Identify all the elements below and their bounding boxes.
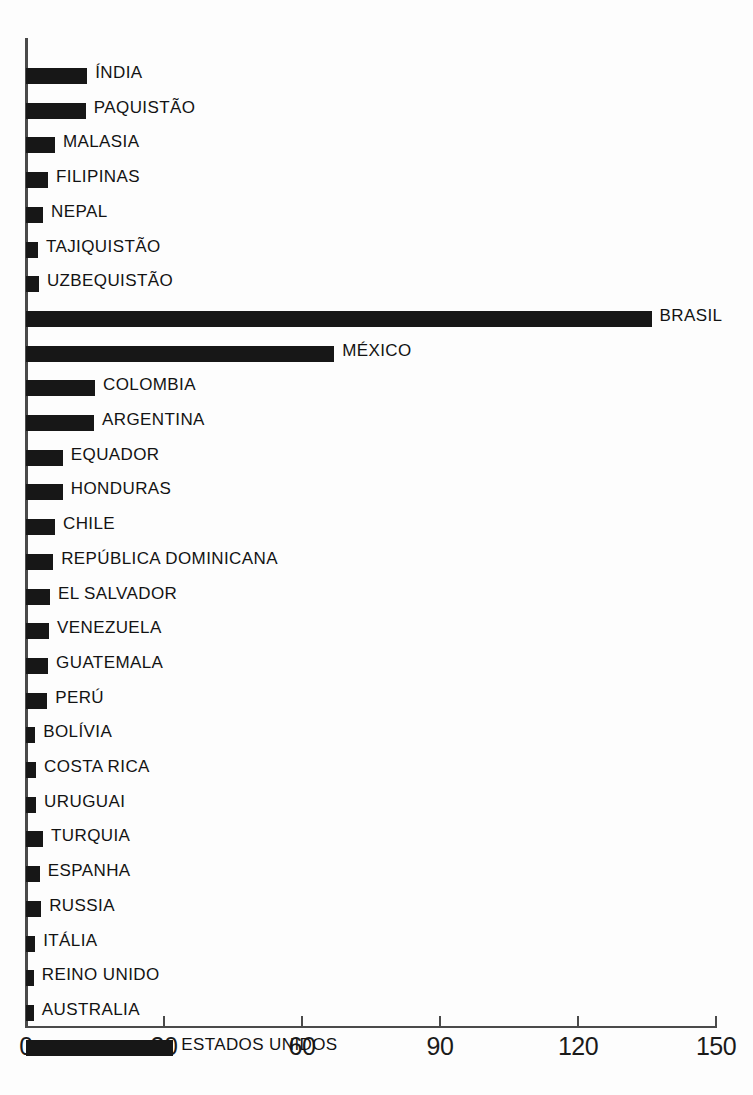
bar-label: TURQUIA [51, 828, 130, 844]
bar-row: CHILE [26, 519, 727, 535]
bar-label: REINO UNIDO [42, 967, 160, 983]
bar-row: BRASIL [26, 311, 727, 327]
bar [26, 589, 50, 605]
bar-label: COSTA RICA [44, 759, 150, 775]
bar [26, 866, 40, 882]
bar-label: MÉXICO [342, 343, 411, 359]
bar [26, 311, 652, 327]
bar-label: COLOMBIA [103, 377, 196, 393]
bar-label: FILIPINAS [56, 169, 140, 185]
bar-row: MÉXICO [26, 346, 727, 362]
bar [26, 415, 94, 431]
bar-label: CHILE [63, 516, 115, 532]
bar [26, 693, 47, 709]
bar [26, 797, 36, 813]
bar-label: ESTADOS UNIDOS [181, 1037, 337, 1053]
bar [26, 1040, 173, 1056]
chart-page: 0306090120150 ÍNDIAPAQUISTÃOMALASIAFILIP… [0, 0, 753, 1095]
bar-row: UZBEQUISTÃO [26, 276, 727, 292]
bar [26, 901, 41, 917]
bar-row: ITÁLIA [26, 936, 727, 952]
bar [26, 380, 95, 396]
bar [26, 172, 48, 188]
bar-row: COLOMBIA [26, 380, 727, 396]
bar-row: PERÚ [26, 693, 727, 709]
bar [26, 554, 53, 570]
bar-row: ESTADOS UNIDOS [26, 1040, 727, 1056]
bar [26, 762, 36, 778]
bar-row: RUSSIA [26, 901, 727, 917]
bar [26, 727, 35, 743]
bar-label: EL SALVADOR [58, 586, 177, 602]
bar-row: ÍNDIA [26, 68, 727, 84]
bar-label: PAQUISTÃO [94, 100, 196, 116]
bar-label: GUATEMALA [56, 655, 163, 671]
bar-row: TAJIQUISTÃO [26, 242, 727, 258]
x-axis-line [25, 1026, 717, 1028]
bar [26, 346, 334, 362]
bar-label: ITÁLIA [43, 933, 97, 949]
bar [26, 970, 34, 986]
bar-label: ÍNDIA [95, 65, 142, 81]
bar-label: BRASIL [660, 308, 723, 324]
bar-row: REINO UNIDO [26, 970, 727, 986]
bar-label: RUSSIA [49, 898, 115, 914]
bar-row: MALASIA [26, 137, 727, 153]
bar-row: REPÚBLICA DOMINICANA [26, 554, 727, 570]
bar [26, 137, 55, 153]
bar-row: PAQUISTÃO [26, 103, 727, 119]
bar [26, 831, 43, 847]
bar-row: ESPANHA [26, 866, 727, 882]
bar-label: URUGUAI [44, 794, 125, 810]
bar-chart: 0306090120150 ÍNDIAPAQUISTÃOMALASIAFILIP… [0, 0, 753, 1095]
bar-row: FILIPINAS [26, 172, 727, 188]
bar-label: ESPANHA [48, 863, 131, 879]
bar-label: ARGENTINA [102, 412, 205, 428]
bar-row: ARGENTINA [26, 415, 727, 431]
bar-row: TURQUIA [26, 831, 727, 847]
bar-row: HONDURAS [26, 484, 727, 500]
bar [26, 936, 35, 952]
bar-row: URUGUAI [26, 797, 727, 813]
bar [26, 103, 86, 119]
bar [26, 242, 38, 258]
bar-label: EQUADOR [71, 447, 160, 463]
bar-label: HONDURAS [71, 481, 172, 497]
bar-row: EL SALVADOR [26, 589, 727, 605]
bar [26, 519, 55, 535]
bar-label: TAJIQUISTÃO [46, 239, 161, 255]
bar [26, 450, 63, 466]
bar-label: MALASIA [63, 134, 140, 150]
bar [26, 484, 63, 500]
bar-label: BOLÍVIA [43, 724, 112, 740]
bar-row: VENEZUELA [26, 623, 727, 639]
bar [26, 276, 39, 292]
bar [26, 623, 49, 639]
bar-label: NEPAL [51, 204, 108, 220]
bar-label: PERÚ [55, 690, 104, 706]
bar-row: COSTA RICA [26, 762, 727, 778]
bar-row: AUSTRALIA [26, 1005, 727, 1021]
bar-label: REPÚBLICA DOMINICANA [61, 551, 278, 567]
bar [26, 68, 87, 84]
bar [26, 207, 43, 223]
bar-row: NEPAL [26, 207, 727, 223]
bar-label: VENEZUELA [57, 620, 162, 636]
bar-row: EQUADOR [26, 450, 727, 466]
bar-row: BOLÍVIA [26, 727, 727, 743]
bar [26, 1005, 34, 1021]
bar [26, 658, 48, 674]
bar-label: AUSTRALIA [42, 1002, 140, 1018]
bar-row: GUATEMALA [26, 658, 727, 674]
bar-label: UZBEQUISTÃO [47, 273, 173, 289]
